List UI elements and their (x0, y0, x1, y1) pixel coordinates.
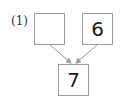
left-arrow-icon (50, 45, 71, 63)
number-box-bottom: 7 (58, 64, 89, 96)
bottom-box-value: 7 (67, 70, 80, 90)
right-arrow-icon (76, 45, 97, 63)
